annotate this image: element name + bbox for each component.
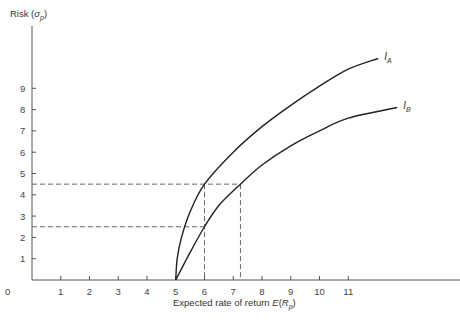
x-tick-label: 11 xyxy=(343,286,353,297)
y-axis-title: Risk (σp) xyxy=(10,8,47,22)
curve-label-i-a: IA xyxy=(384,51,392,64)
x-tick-label: 7 xyxy=(231,286,236,297)
x-tick-label: 5 xyxy=(173,286,178,297)
origin-label: 0 xyxy=(5,286,10,297)
indifference-curves xyxy=(176,58,397,280)
y-tick-label: 3 xyxy=(20,211,25,222)
x-tick-label: 10 xyxy=(314,286,325,297)
curve-i-b xyxy=(176,107,397,280)
dashed-guide-lines xyxy=(32,184,240,280)
curve-labels: IAIB xyxy=(384,51,411,113)
x-axis-title: Expected rate of return E(Rp) xyxy=(173,297,296,311)
curve-i-a xyxy=(176,58,378,280)
curve-label-i-b: IB xyxy=(403,100,411,113)
x-axis-ticks: 1234567891011 xyxy=(58,276,353,297)
x-tick-label: 1 xyxy=(58,286,63,297)
risk-return-chart: 123456789 1234567891011 IAIB 0 Risk (σp)… xyxy=(0,0,460,325)
y-tick-label: 6 xyxy=(20,147,25,158)
x-tick-label: 9 xyxy=(288,286,293,297)
y-tick-label: 2 xyxy=(20,232,25,243)
y-tick-label: 1 xyxy=(20,253,25,264)
x-tick-label: 2 xyxy=(87,286,92,297)
y-tick-label: 8 xyxy=(20,104,25,115)
x-tick-label: 3 xyxy=(116,286,121,297)
x-tick-label: 8 xyxy=(259,286,264,297)
y-tick-label: 4 xyxy=(20,189,25,200)
y-tick-label: 7 xyxy=(20,125,25,136)
y-tick-label: 5 xyxy=(20,168,25,179)
x-tick-label: 6 xyxy=(202,286,207,297)
y-tick-label: 9 xyxy=(20,83,25,94)
x-tick-label: 4 xyxy=(144,286,149,297)
y-axis-ticks: 123456789 xyxy=(20,83,36,264)
